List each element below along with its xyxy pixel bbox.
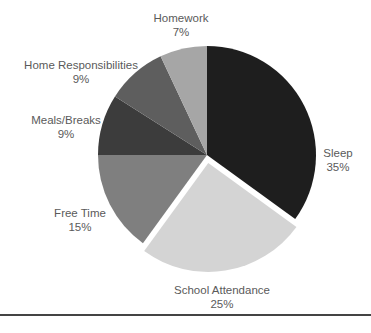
slice-label-home-responsibilities: Home Responsibilities9% — [24, 58, 138, 86]
slice-label-name: School Attendance — [174, 283, 270, 297]
slice-label-meals-breaks: Meals/Breaks9% — [31, 113, 101, 141]
slice-label-value: 15% — [54, 220, 106, 234]
bottom-rule — [0, 314, 371, 316]
slice-label-free-time: Free Time15% — [54, 206, 106, 234]
slice-label-name: Homework — [154, 11, 209, 25]
slice-label-name: Sleep — [323, 146, 352, 160]
slice-label-name: Home Responsibilities — [24, 58, 138, 72]
slice-label-name: Free Time — [54, 206, 106, 220]
slice-label-name: Meals/Breaks — [31, 113, 101, 127]
slice-label-value: 25% — [174, 297, 270, 311]
slice-label-value: 9% — [24, 72, 138, 86]
slice-label-homework: Homework7% — [154, 11, 209, 39]
slice-label-value: 35% — [323, 160, 352, 174]
slice-label-sleep: Sleep35% — [323, 146, 352, 174]
slice-label-value: 7% — [154, 25, 209, 39]
slice-label-school-attendance: School Attendance25% — [174, 283, 270, 311]
slice-label-value: 9% — [31, 127, 101, 141]
